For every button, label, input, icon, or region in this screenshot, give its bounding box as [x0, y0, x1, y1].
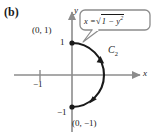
- figure-graphics: [0, 0, 155, 137]
- equation-left-side: x =: [84, 16, 96, 26]
- curve-label-subscript: 2: [115, 50, 118, 57]
- point-zero-one-dot: [69, 40, 74, 45]
- radicand-exponent: 2: [120, 15, 123, 21]
- curve-label-c2: C2: [108, 45, 118, 58]
- panel-label: (b): [4, 6, 19, 18]
- x-tick-label-minus-one: −1: [33, 80, 43, 89]
- radicand-base: 1 − y: [102, 16, 121, 26]
- radicand-expression: 1 − y2: [101, 14, 125, 25]
- y-tick-label-one: 1: [60, 38, 65, 47]
- point-label-zero-one: (0, 1): [32, 26, 52, 35]
- figure-panel-b: (b) y x 1 −1 −1 (0, 1) (0, −1) C2 x =√1 …: [0, 0, 155, 137]
- curve-label-base: C: [108, 44, 115, 55]
- y-axis-label: y: [74, 6, 78, 15]
- callout-tail: [83, 30, 99, 42]
- y-tick-label-minus-one: −1: [57, 108, 67, 117]
- x-axis-label: x: [143, 69, 147, 78]
- point-zero-minus-one-dot: [69, 104, 74, 109]
- callout-equation: x =√1 − y2: [84, 14, 124, 25]
- point-label-zero-minus-one: (0, −1): [72, 119, 97, 128]
